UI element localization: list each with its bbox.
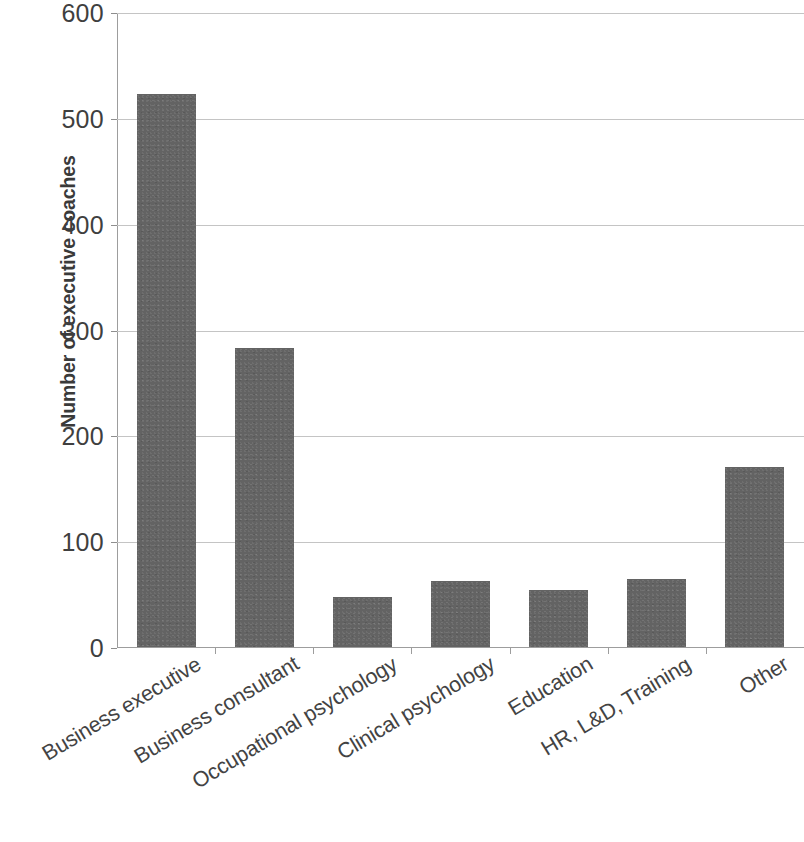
gridline <box>117 542 804 543</box>
y-tick-label: 600 <box>14 1 104 26</box>
y-tick-label: 0 <box>14 636 104 661</box>
x-tick-label: Business executive <box>38 745 51 766</box>
bar <box>235 348 294 648</box>
bar <box>333 597 392 647</box>
x-tick-label: Business consultant <box>130 748 143 769</box>
x-tick-label: Other <box>735 679 748 700</box>
x-tick-label: Clinical psychology <box>333 744 346 765</box>
x-tick-label: HR, L&D, Training <box>537 740 550 761</box>
y-tick-label: 400 <box>14 213 104 238</box>
x-tick-label: Education <box>504 700 517 721</box>
y-tick-mark <box>111 13 117 14</box>
y-tick-mark <box>111 436 117 437</box>
y-tick-label: 500 <box>14 107 104 132</box>
gridline <box>117 225 804 226</box>
y-tick-mark <box>111 648 117 649</box>
bar <box>431 581 490 647</box>
y-tick-label: 300 <box>14 319 104 344</box>
y-tick-mark <box>111 225 117 226</box>
x-axis-tick-labels: Business executiveBusiness consultantOcc… <box>117 652 804 842</box>
x-axis-line <box>117 647 804 648</box>
gridline <box>117 119 804 120</box>
x-tick-label: Occupational psychology <box>188 773 201 794</box>
gridline <box>117 436 804 437</box>
bar <box>529 590 588 647</box>
y-tick-mark <box>111 331 117 332</box>
bar <box>725 467 784 647</box>
y-tick-mark <box>111 119 117 120</box>
gridline <box>117 331 804 332</box>
y-axis-tick-labels: 0100200300400500600 <box>0 0 104 660</box>
y-tick-label: 100 <box>14 530 104 555</box>
plot-area <box>117 13 804 648</box>
bar-chart: Number of executive coaches 010020030040… <box>0 0 804 842</box>
bar <box>137 94 196 648</box>
gridline <box>117 13 804 14</box>
y-tick-mark <box>111 542 117 543</box>
bar <box>627 579 686 647</box>
y-tick-label: 200 <box>14 424 104 449</box>
